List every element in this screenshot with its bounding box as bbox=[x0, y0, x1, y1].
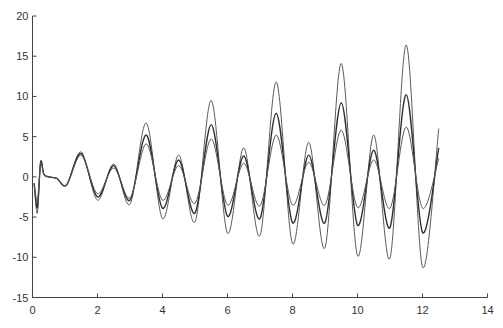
series-line-mean bbox=[34, 95, 439, 233]
x-tick-label: 8 bbox=[289, 304, 295, 316]
y-tick-label: -10 bbox=[13, 251, 29, 263]
series-line-upper-bound bbox=[34, 45, 439, 268]
x-tick-label: 4 bbox=[159, 304, 165, 316]
x-tick-label: 6 bbox=[224, 304, 230, 316]
line-chart: -15-10-505101520 02468101214 bbox=[0, 0, 503, 328]
y-tick-label: 10 bbox=[16, 90, 28, 102]
x-tick-label: 12 bbox=[416, 304, 428, 316]
x-tick-label: 14 bbox=[481, 304, 493, 316]
y-tick-label: 5 bbox=[22, 131, 28, 143]
series-group bbox=[34, 45, 439, 268]
y-tick-label: 20 bbox=[16, 10, 28, 22]
x-tick-label: 0 bbox=[29, 304, 35, 316]
axes bbox=[33, 16, 488, 298]
y-tick-label: -5 bbox=[19, 211, 29, 223]
y-tick-label: 0 bbox=[22, 171, 28, 183]
y-tick-label: -15 bbox=[13, 292, 29, 304]
x-tick-label: 2 bbox=[94, 304, 100, 316]
x-ticks: 02468101214 bbox=[29, 294, 493, 316]
y-tick-label: 15 bbox=[16, 50, 28, 62]
x-tick-label: 10 bbox=[351, 304, 363, 316]
